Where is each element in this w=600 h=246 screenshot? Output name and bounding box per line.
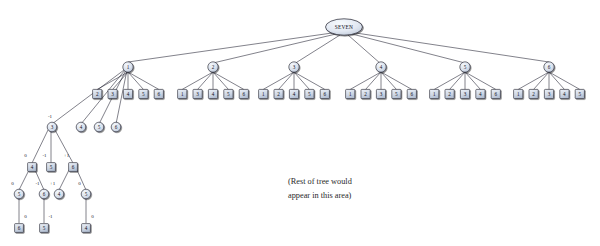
level4-edge-0: 0 — [24, 153, 27, 158]
tree-edge — [381, 72, 396, 89]
level4-edge-1: -1 — [42, 153, 47, 158]
level2-square-2-1[interactable] — [178, 89, 187, 98]
tree-edge — [294, 72, 325, 89]
annotation-line-1: (Rest of tree would — [288, 176, 352, 189]
level2-square-2-4[interactable] — [208, 89, 217, 98]
tree-edge — [465, 72, 480, 89]
tree-edge — [279, 72, 294, 89]
level2-square-5-1[interactable] — [430, 89, 439, 98]
level2-square-5-4[interactable] — [476, 89, 485, 98]
level2-square-1-5[interactable] — [139, 89, 148, 98]
level2-square-3-4[interactable] — [289, 89, 298, 98]
level5-circle-5-0[interactable] — [14, 189, 24, 199]
level2-square-2-6[interactable] — [239, 89, 248, 98]
tree-canvas: SEVEN12345621345631245641235651234661234… — [0, 0, 600, 246]
level6-square-5-1[interactable] — [40, 224, 49, 233]
tree-edge — [213, 72, 244, 89]
level1-circle-6[interactable] — [544, 62, 554, 72]
level5-circle-4-2[interactable] — [54, 189, 64, 199]
tree-edge — [549, 72, 580, 89]
level6-edge-0: 0 — [24, 214, 27, 219]
annotation-line-2: appear in this area) — [288, 190, 351, 203]
level2-square-6-1[interactable] — [514, 89, 523, 98]
level1-circle-3[interactable] — [289, 62, 299, 72]
level4-square-4-0[interactable] — [28, 163, 37, 172]
level2-square-1-2[interactable] — [93, 89, 102, 98]
level2-square-4-5[interactable] — [392, 89, 401, 98]
tree-edge — [434, 72, 465, 89]
level4-square-6-2[interactable] — [69, 163, 78, 172]
tree-edge — [549, 72, 564, 89]
level2-square-4-6[interactable] — [407, 89, 416, 98]
level6-square-4-2[interactable] — [82, 224, 91, 233]
tree-edge — [128, 72, 143, 89]
tree-edge — [294, 72, 309, 89]
level2-square-6-3[interactable] — [544, 89, 553, 98]
tree-edge — [350, 72, 381, 89]
level3-circle-5-2[interactable] — [94, 122, 104, 132]
level6-square-6-0[interactable] — [15, 224, 24, 233]
level3-circle-3-0[interactable] — [47, 122, 57, 132]
level2-square-6-2[interactable] — [529, 89, 538, 98]
level5-edge-2: +1 — [50, 181, 56, 186]
level2-square-4-2[interactable] — [361, 89, 370, 98]
tree-edge — [213, 72, 228, 89]
level4-square-5-1[interactable] — [47, 163, 56, 172]
level2-square-1-4[interactable] — [123, 89, 132, 98]
level2-square-6-4[interactable] — [560, 89, 569, 98]
level6-edge-2: 0 — [91, 214, 94, 219]
level2-square-3-2[interactable] — [274, 89, 283, 98]
level5-circle-6-1[interactable] — [39, 189, 49, 199]
level6-edge-1: -1 — [48, 214, 53, 219]
level3-circle-4-1[interactable] — [76, 122, 86, 132]
tree-edge — [381, 72, 412, 89]
level5-edge-3: 0 — [78, 181, 81, 186]
level1-circle-5[interactable] — [460, 62, 470, 72]
level2-square-6-5[interactable] — [575, 89, 584, 98]
level1-circle-4[interactable] — [376, 62, 386, 72]
level1-edges — [97, 72, 580, 89]
level2-square-3-6[interactable] — [320, 89, 329, 98]
level2-square-4-1[interactable] — [346, 89, 355, 98]
root-node-seven[interactable] — [326, 19, 363, 35]
level2-square-2-3[interactable] — [193, 89, 202, 98]
tree-edge — [128, 72, 159, 89]
level2-square-1-3[interactable] — [108, 89, 117, 98]
level2-square-2-5[interactable] — [224, 89, 233, 98]
level5-edge-0: 0 — [11, 181, 14, 186]
level5-edge-1: -1 — [35, 181, 40, 186]
level3-circle-6-3[interactable] — [111, 122, 121, 132]
tree-edge — [534, 72, 549, 89]
game-tree-figure: SEVEN12345621345631245641235651234661234… — [0, 0, 600, 246]
tree-edge — [450, 72, 465, 89]
level2-square-4-3[interactable] — [376, 89, 385, 98]
level5-circle-5-3[interactable] — [81, 189, 91, 199]
level3-value-minus-one: -1 — [48, 114, 53, 119]
level2-square-1-6[interactable] — [154, 89, 163, 98]
level1-circle-1[interactable] — [123, 62, 133, 72]
tree-edge — [198, 72, 213, 89]
level2-square-3-5[interactable] — [305, 89, 314, 98]
root-edges — [128, 33, 549, 64]
tree-edge — [113, 72, 128, 89]
tree-edge — [465, 72, 496, 89]
level2-square-5-2[interactable] — [445, 89, 454, 98]
tree-edge — [182, 72, 213, 89]
tree-edge — [366, 72, 381, 89]
tree-edge — [263, 72, 294, 89]
level2-square-5-3[interactable] — [460, 89, 469, 98]
tree-edge — [518, 72, 549, 89]
level2-square-5-6[interactable] — [491, 89, 500, 98]
level1-circle-2[interactable] — [208, 62, 218, 72]
level2-square-3-1[interactable] — [259, 89, 268, 98]
